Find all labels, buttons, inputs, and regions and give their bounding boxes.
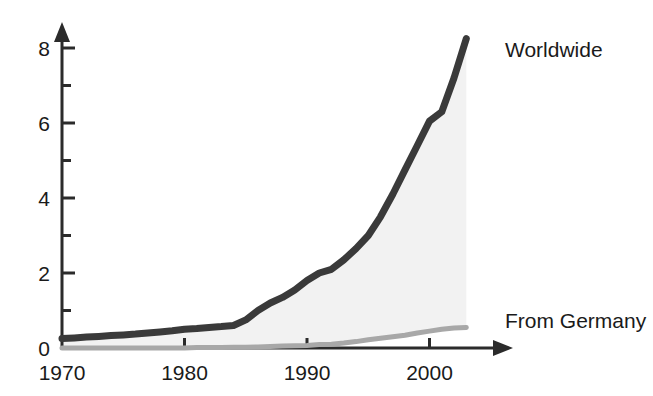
y-axis-ticks: 02468 <box>38 37 75 360</box>
x-tick-label: 1970 <box>39 361 86 384</box>
y-axis-arrow-icon <box>54 22 70 42</box>
area-fill-between-series <box>62 39 466 348</box>
y-tick-label: 4 <box>38 187 50 210</box>
chart-container: 02468 1970198019902000 Worldwide From Ge… <box>0 0 653 396</box>
y-tick-label: 8 <box>38 37 50 60</box>
x-axis-arrow-icon <box>493 340 513 356</box>
x-tick-label: 1990 <box>284 361 331 384</box>
y-tick-label: 0 <box>38 337 50 360</box>
line-chart: 02468 1970198019902000 Worldwide From Ge… <box>0 0 653 396</box>
y-tick-label: 6 <box>38 112 50 135</box>
x-tick-label: 1980 <box>161 361 208 384</box>
series-label-from-germany: From Germany <box>505 309 647 332</box>
series-label-worldwide: Worldwide <box>505 38 603 61</box>
x-tick-label: 2000 <box>406 361 453 384</box>
y-tick-label: 2 <box>38 262 50 285</box>
